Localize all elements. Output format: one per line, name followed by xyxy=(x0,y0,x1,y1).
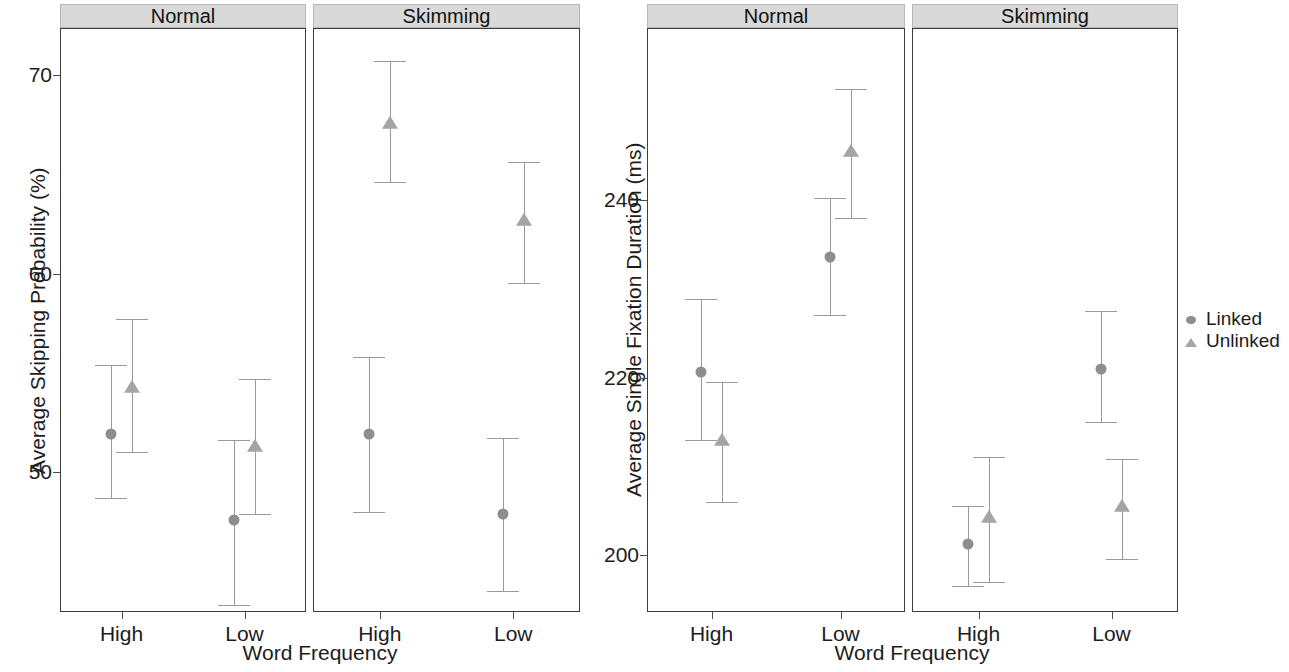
legend-item-linked: Linked xyxy=(1184,308,1289,330)
error-bar-cap xyxy=(353,512,385,513)
data-point-unlinked xyxy=(124,379,140,392)
data-point-linked xyxy=(1096,363,1107,374)
data-point-linked xyxy=(696,367,707,378)
x-axis-tick-label: High xyxy=(358,622,401,646)
data-point-unlinked xyxy=(981,510,997,523)
legend: Linked Unlinked xyxy=(1184,308,1289,352)
data-point-linked xyxy=(963,539,974,550)
panel-normal xyxy=(647,28,905,612)
error-bar-cap xyxy=(814,315,846,316)
error-bar-cap xyxy=(239,379,271,380)
x-axis-tick-mark xyxy=(1112,612,1113,619)
error-bar-cap xyxy=(1085,422,1117,423)
x-axis-tick-label: Low xyxy=(821,622,860,646)
triangle-marker-icon xyxy=(1184,334,1199,349)
data-point-unlinked xyxy=(843,144,859,157)
legend-label: Unlinked xyxy=(1206,330,1280,352)
error-bar-cap xyxy=(706,382,738,383)
figure-root: Average Skipping Probability (%) Normal … xyxy=(0,0,1289,672)
x-axis-tick-label: Low xyxy=(225,622,264,646)
y-axis-tick-label: 240 xyxy=(600,188,639,212)
error-bar-cap xyxy=(814,198,846,199)
x-axis-tick-mark xyxy=(245,612,246,619)
error-bar-cap xyxy=(706,502,738,503)
x-axis-tick-mark xyxy=(122,612,123,619)
data-point-linked xyxy=(364,429,375,440)
chart-single-fixation-duration: Average Single Fixation Duration (ms) No… xyxy=(600,0,1189,672)
x-axis-tick-label: Low xyxy=(494,622,533,646)
x-axis-tick-mark xyxy=(513,612,514,619)
y-axis-tick-mark xyxy=(640,378,647,379)
facet-strip-skimming: Skimming xyxy=(313,4,580,28)
error-bar-cap xyxy=(1106,559,1138,560)
x-axis-tick-label: High xyxy=(957,622,1000,646)
y-axis-tick-label: 70 xyxy=(0,63,52,87)
facet-strip-label: Skimming xyxy=(1001,5,1089,28)
error-bar-cap xyxy=(973,582,1005,583)
y-axis-tick-mark xyxy=(640,555,647,556)
x-axis-tick-label: Low xyxy=(1092,622,1131,646)
error-bar-cap xyxy=(116,452,148,453)
error-bar-cap xyxy=(353,357,385,358)
y-axis-tick-label: 220 xyxy=(600,366,639,390)
legend-item-unlinked: Unlinked xyxy=(1184,330,1289,352)
facet-strip-skimming: Skimming xyxy=(912,4,1178,28)
y-axis-tick-label: 200 xyxy=(600,543,639,567)
error-bar-cap xyxy=(487,591,519,592)
data-point-unlinked xyxy=(714,432,730,445)
error-bar-cap xyxy=(835,218,867,219)
data-point-unlinked xyxy=(382,115,398,128)
x-axis-tick-label: High xyxy=(690,622,733,646)
x-axis-tick-mark xyxy=(380,612,381,619)
error-bar-cap xyxy=(487,438,519,439)
y-axis-tick-mark xyxy=(640,200,647,201)
legend-label: Linked xyxy=(1206,308,1262,330)
y-axis-title: Average Skipping Probability (%) xyxy=(26,167,50,474)
error-bar-cap xyxy=(95,498,127,499)
panel-normal xyxy=(60,28,306,612)
data-point-unlinked xyxy=(1114,499,1130,512)
facet-strip-normal: Normal xyxy=(647,4,905,28)
x-axis-tick-mark xyxy=(841,612,842,619)
error-bar-cap xyxy=(218,605,250,606)
data-point-unlinked xyxy=(516,213,532,226)
data-point-linked xyxy=(106,429,117,440)
error-bar-cap xyxy=(685,440,717,441)
data-point-linked xyxy=(497,508,508,519)
error-bar-cap xyxy=(95,365,127,366)
facet-strip-normal: Normal xyxy=(60,4,306,28)
facet-strip-label: Normal xyxy=(151,5,215,28)
error-bar-cap xyxy=(1085,311,1117,312)
error-bar-cap xyxy=(508,283,540,284)
data-point-linked xyxy=(825,251,836,262)
error-bar-cap xyxy=(218,440,250,441)
y-axis-tick-mark xyxy=(53,75,60,76)
y-axis-tick-mark xyxy=(53,274,60,275)
error-bar-cap xyxy=(952,586,984,587)
data-point-unlinked xyxy=(247,439,263,452)
error-bar-cap xyxy=(835,89,867,90)
facet-strip-label: Normal xyxy=(744,5,808,28)
panel-skimming xyxy=(912,28,1178,612)
error-bar-cap xyxy=(374,61,406,62)
error-bar-cap xyxy=(116,319,148,320)
data-point-linked xyxy=(229,514,240,525)
chart-skipping-probability: Average Skipping Probability (%) Normal … xyxy=(0,0,600,672)
error-bar-cap xyxy=(1106,459,1138,460)
error-bar-cap xyxy=(952,506,984,507)
error-bar-cap xyxy=(239,514,271,515)
y-axis-tick-label: 60 xyxy=(0,262,52,286)
y-axis-tick-mark xyxy=(53,472,60,473)
error-bar-cap xyxy=(508,162,540,163)
circle-marker-icon xyxy=(1184,312,1199,327)
x-axis-title: Word Frequency xyxy=(0,641,640,665)
x-axis-tick-mark xyxy=(712,612,713,619)
error-bar-cap xyxy=(973,457,1005,458)
x-axis-tick-mark xyxy=(979,612,980,619)
facet-strip-label: Skimming xyxy=(403,5,491,28)
x-axis-tick-label: High xyxy=(100,622,143,646)
error-bar-cap xyxy=(374,182,406,183)
y-axis-tick-label: 50 xyxy=(0,460,52,484)
error-bar-cap xyxy=(685,299,717,300)
panel-skimming xyxy=(313,28,580,612)
